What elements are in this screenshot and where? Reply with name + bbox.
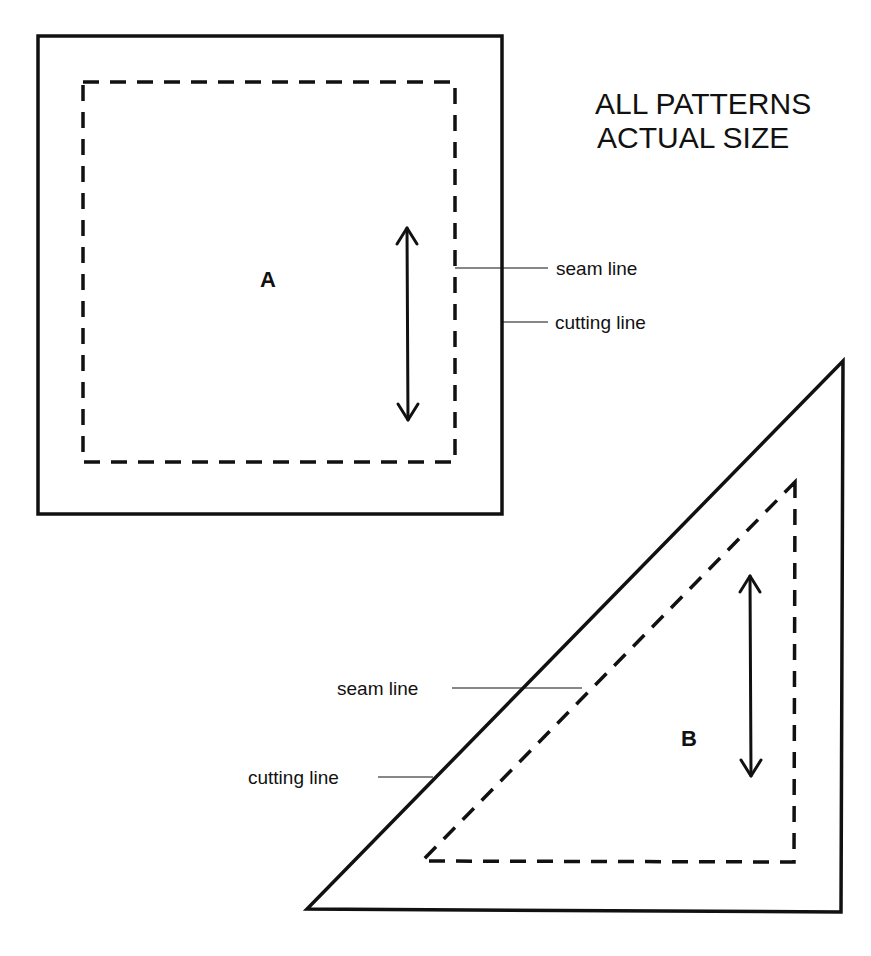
grain-arrow-a-icon: [397, 228, 418, 420]
piece-label-a: A: [260, 267, 276, 292]
seam-line-label-b: seam line: [337, 678, 418, 699]
pattern-piece-b: B seam line cutting line: [248, 361, 843, 912]
seam-line-b: [422, 482, 795, 862]
cutting-line-label-b: cutting line: [248, 767, 339, 788]
pattern-piece-a: A seam line cutting line: [38, 36, 646, 514]
grain-arrow-b-icon: [740, 576, 761, 776]
piece-label-b: B: [681, 726, 697, 751]
heading: ALL PATTERNS ACTUAL SIZE: [595, 87, 811, 154]
heading-line-1: ALL PATTERNS: [595, 87, 811, 120]
cutting-line-label-a: cutting line: [555, 312, 646, 333]
pattern-sheet: ALL PATTERNS ACTUAL SIZE A seam line cut…: [0, 0, 871, 956]
seam-line-label-a: seam line: [556, 258, 637, 279]
heading-line-2: ACTUAL SIZE: [597, 121, 789, 154]
cutting-line-b: [307, 361, 843, 912]
